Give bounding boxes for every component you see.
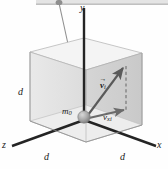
mass-label-subscript: 0	[69, 109, 72, 116]
mass-label: m0	[62, 107, 72, 117]
axis-label-z: z	[2, 140, 6, 150]
axis-label-y: y	[80, 3, 84, 13]
axis-label-x: x	[157, 140, 161, 150]
velocity-horizontal-label: vxi	[103, 113, 112, 123]
physics-diagram-figure: y x z d d d m0 →vi vxi	[0, 0, 168, 169]
velocity-horizontal-subscript: xi	[107, 115, 112, 122]
velocity-vector-label: →vi	[100, 81, 106, 91]
velocity-vector-subscript: i	[104, 83, 106, 90]
vector-overbar-icon: →	[100, 78, 104, 81]
diagram-canvas	[0, 0, 168, 169]
dimension-label-d-front-right: d	[120, 152, 125, 162]
dimension-label-d-left: d	[18, 87, 23, 97]
dimension-label-d-front-left: d	[44, 152, 49, 162]
velocity-vector-overbar-group: →v	[100, 81, 104, 90]
ball-mass	[78, 111, 90, 123]
